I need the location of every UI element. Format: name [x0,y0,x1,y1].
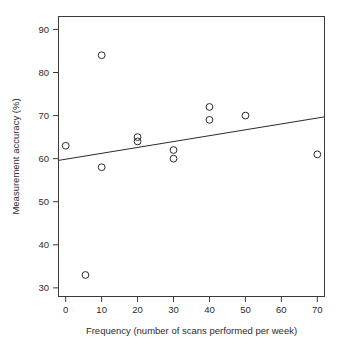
data-point [62,142,69,149]
y-tick-group: 60 [38,153,58,164]
plot-canvas: 30 40 50 60 70 80 [0,0,344,348]
x-tick-group: 40 [204,297,215,316]
y-tick-label: 60 [38,153,49,164]
data-point [170,155,177,162]
y-tick-label: 30 [38,282,49,293]
x-tick-group: 10 [96,297,107,316]
y-tick-group: 80 [38,67,58,78]
y-tick-group: 90 [38,24,58,35]
plot-frame [59,17,325,297]
data-point [134,138,141,145]
x-tick-label: 50 [240,304,251,315]
x-tick-label: 0 [63,304,68,315]
y-tick-group: 40 [38,239,58,250]
scatter-plot-figure: 30 40 50 60 70 80 [0,0,344,348]
y-tick-label: 90 [38,24,49,35]
x-tick-label: 20 [132,304,143,315]
x-tick-group: 70 [312,297,323,316]
x-tick-group: 30 [168,297,179,316]
x-tick-label: 70 [312,304,323,315]
x-axis: 0 10 20 30 40 50 [63,297,323,316]
y-axis: 30 40 50 60 70 80 [38,24,58,293]
regression-trendline [59,117,325,161]
y-tick-group: 50 [38,196,58,207]
y-tick-label: 70 [38,110,49,121]
x-axis-title: Frequency (number of scans performed per… [86,325,297,336]
data-point [206,116,213,123]
data-point [82,272,89,279]
data-point [314,151,321,158]
x-tick-label: 40 [204,304,215,315]
x-tick-group: 50 [240,297,251,316]
x-tick-group: 20 [132,297,143,316]
y-tick-label: 50 [38,196,49,207]
y-tick-group: 30 [38,282,58,293]
y-tick-label: 40 [38,239,49,250]
data-point [98,52,105,59]
data-point-group [62,52,320,278]
data-point [98,164,105,171]
x-tick-group: 60 [276,297,287,316]
x-tick-label: 60 [276,304,287,315]
x-tick-label: 10 [96,304,107,315]
y-tick-label: 80 [38,67,49,78]
data-point [242,112,249,119]
x-tick-group: 0 [63,297,68,316]
x-tick-label: 30 [168,304,179,315]
data-point [170,147,177,154]
data-point [206,104,213,111]
y-tick-group: 70 [38,110,58,121]
y-axis-title: Measurement accuracy (%) [10,98,21,214]
